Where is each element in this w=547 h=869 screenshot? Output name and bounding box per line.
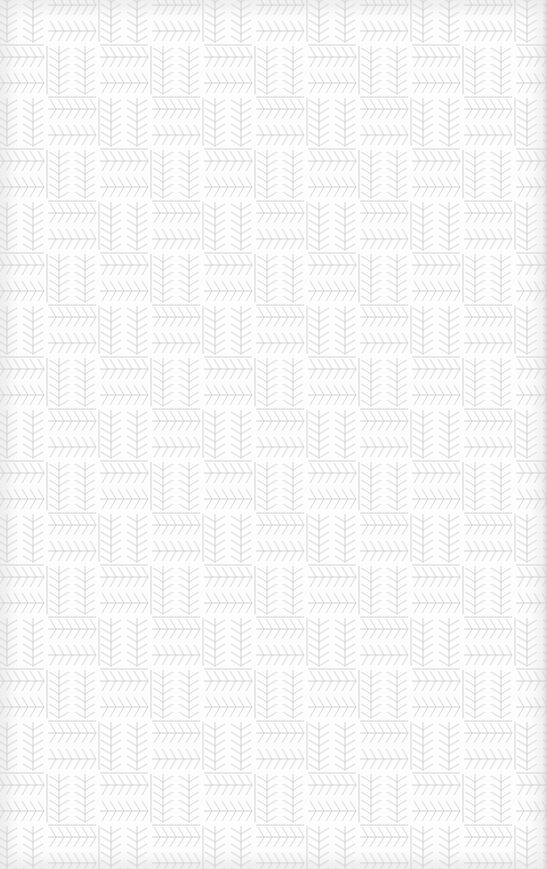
herringbone-pattern	[0, 0, 547, 869]
right-edge-shadow	[543, 0, 547, 869]
textured-background	[0, 0, 547, 869]
